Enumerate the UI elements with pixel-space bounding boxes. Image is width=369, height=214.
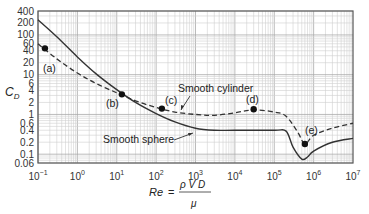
data-point-marker <box>250 106 256 112</box>
x-tick-label: 101 <box>109 169 124 182</box>
data-point-marker <box>159 105 165 111</box>
label-d: (d) <box>246 93 259 105</box>
svg-text:μ: μ <box>190 198 197 209</box>
y-tick-label: 0.2 <box>20 137 34 148</box>
svg-text:=: = <box>168 186 174 198</box>
y-tick-label: 0.4 <box>20 125 34 136</box>
data-point-marker <box>42 45 48 51</box>
svg-text:Re: Re <box>149 186 163 198</box>
drag-coefficient-chart: 4002001006040201064210.60.40.20.10.06 10… <box>0 0 369 214</box>
label-b: (b) <box>106 97 119 109</box>
y-tick-label: 2 <box>28 97 34 108</box>
y-tick-label: 20 <box>23 57 35 68</box>
svg-text:ρ V D: ρ V D <box>179 179 205 190</box>
x-tick-label: 104 <box>227 169 242 182</box>
sphere-arrowhead <box>188 133 193 136</box>
data-point-marker <box>302 141 308 147</box>
data-point-marker <box>119 91 125 97</box>
x-tick-label: 10−1 <box>28 169 47 182</box>
y-tick-label: 200 <box>17 17 34 28</box>
label-e: (e) <box>305 124 318 136</box>
y-tick-label: 4 <box>28 85 34 96</box>
x-axis-label: Re = ρ V D μ <box>149 179 211 209</box>
label-a: (a) <box>43 62 56 74</box>
y-tick-label: 40 <box>23 45 35 56</box>
y-axis-ticks: 4002001006040201064210.60.40.20.10.06 <box>15 6 35 169</box>
sphere-label: Smooth sphere <box>103 133 174 145</box>
x-tick-label: 105 <box>267 169 282 182</box>
x-tick-label: 106 <box>306 169 321 182</box>
x-tick-label: 107 <box>345 169 360 182</box>
y-tick-label: 400 <box>17 6 34 17</box>
label-c: (c) <box>165 94 177 106</box>
y-tick-label: 0.06 <box>15 158 35 169</box>
cylinder-label: Smooth cylinder <box>178 82 254 94</box>
x-tick-label: 100 <box>70 169 85 182</box>
y-axis-label: CD <box>5 85 20 101</box>
x-tick-label: 102 <box>149 169 164 182</box>
